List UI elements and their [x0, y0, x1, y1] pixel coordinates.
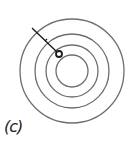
circle-4 — [56, 55, 88, 87]
line-tick-mark — [45, 39, 47, 41]
point-marker — [56, 51, 62, 57]
circle-3 — [46, 45, 98, 97]
figure-label: (c) — [4, 117, 22, 136]
radial-line — [32, 28, 57, 52]
concentric-circles — [20, 19, 124, 123]
